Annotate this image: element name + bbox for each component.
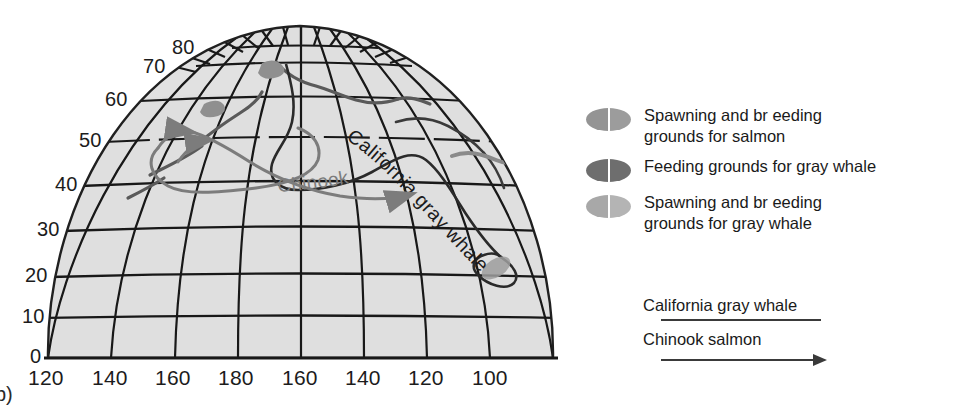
panel-letter: b) [0,383,13,406]
lon-tick-100: 100 [472,366,508,390]
lat-tick-60: 60 [105,88,128,111]
route-key-salmon-arrow [661,354,836,366]
route-key-whale-line [661,319,821,321]
legend-swatch-wrap [586,155,644,182]
legend-label: Spawning and br eeding grounds for salmo… [644,104,822,146]
split-ellipse-icon [586,159,631,182]
legend-label-line1: Spawning and br eeding [644,192,822,213]
lat-tick-0: 0 [30,345,41,368]
lat-tick-70: 70 [143,55,166,78]
legend: Spawning and br eeding grounds for salmo… [586,104,956,243]
lon-tick-180: 180 [218,366,254,390]
arrow-head-icon [813,354,827,366]
legend-item-whale-spawning: Spawning and br eeding grounds for gray … [586,191,956,233]
legend-swatch-wrap [586,104,644,131]
legend-label-line2: grounds for gray whale [644,213,822,234]
legend-label-line1: Spawning and br eeding [644,105,822,126]
legend-label: Feeding grounds for gray whale [644,155,876,177]
lon-tick-120e: 120 [408,366,444,390]
lon-tick-120w-left: 120 [28,366,64,390]
legend-item-whale-feeding: Feeding grounds for gray whale [586,155,956,182]
lon-tick-160: 160 [155,366,191,390]
lat-tick-20: 20 [25,264,48,287]
lon-tick-160e: 160 [282,366,318,390]
legend-label: Spawning and br eeding grounds for gray … [644,191,822,233]
lon-tick-140: 140 [92,366,128,390]
route-key-salmon-label: Chinook salmon [643,330,943,350]
route-key: California gray whale Chinook salmon [643,296,943,366]
legend-label-line1: Feeding grounds for gray whale [644,156,876,177]
lon-tick-140e: 140 [345,366,381,390]
split-ellipse-icon [586,195,631,218]
lat-tick-80: 80 [172,36,195,59]
arrow-shaft [661,359,821,361]
legend-swatch-wrap [586,191,644,218]
split-ellipse-icon [586,108,631,131]
pacific-migration-map: California gray whale Chinook [0,0,600,413]
lat-tick-30: 30 [37,218,60,241]
legend-label-line2: grounds for salmon [644,126,822,147]
lat-tick-10: 10 [22,305,45,328]
legend-item-salmon-spawning: Spawning and br eeding grounds for salmo… [586,104,956,146]
figure-panel: California gray whale Chinook 120 140 16… [0,0,959,413]
lat-tick-50: 50 [79,129,102,152]
lat-tick-40: 40 [55,173,78,196]
route-key-whale-label: California gray whale [643,296,943,316]
